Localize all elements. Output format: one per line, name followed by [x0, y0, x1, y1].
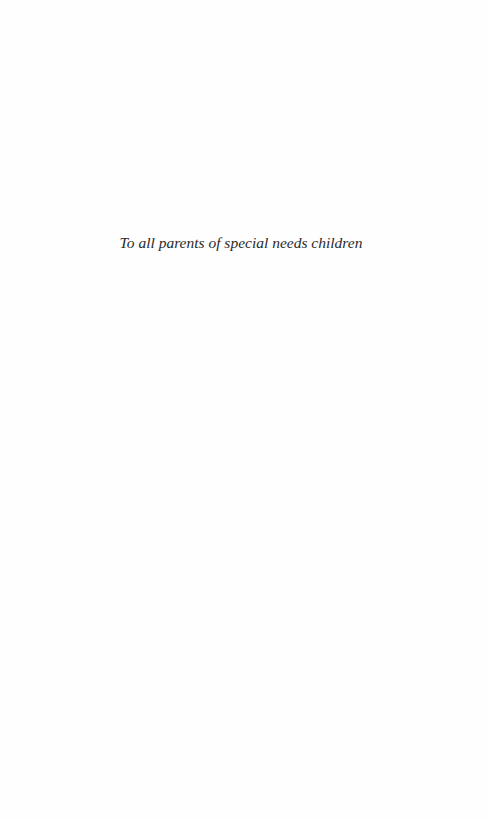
dedication-text: To all parents of special needs children: [0, 233, 482, 253]
book-page: To all parents of special needs children: [0, 0, 488, 819]
